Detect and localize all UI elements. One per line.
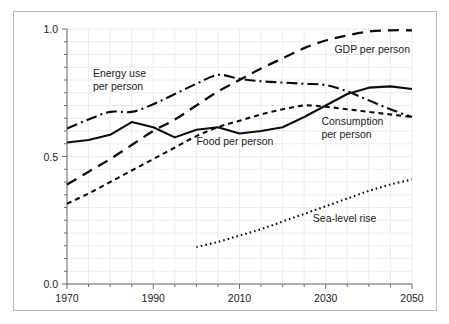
- line-chart: 197019902010203020500.00.51.0 GDP per pe…: [0, 0, 449, 324]
- series-label-energy: Energy use: [93, 67, 146, 79]
- series-label-sealevel: Sea-level rise: [313, 212, 377, 224]
- y-axis-tick-label: 1.0: [43, 23, 58, 35]
- axis-tick-labels: 197019902010203020500.00.51.0: [43, 23, 423, 304]
- y-axis-tick-label: 0.5: [43, 151, 58, 163]
- x-axis-tick-label: 1970: [55, 292, 79, 304]
- x-axis-tick-label: 2010: [228, 292, 252, 304]
- series-label-consumption: Consumption: [321, 115, 383, 127]
- chart-screenshot: 197019902010203020500.00.51.0 GDP per pe…: [0, 0, 449, 324]
- chart-canvas: 197019902010203020500.00.51.0 GDP per pe…: [0, 0, 449, 324]
- x-axis-tick-label: 2030: [314, 292, 338, 304]
- y-axis-tick-label: 0.0: [43, 278, 58, 290]
- series-annotations: GDP per personEnergy useper personFood p…: [93, 43, 410, 223]
- series-label-gdp: GDP per person: [334, 43, 410, 55]
- series-label-consumption: per person: [321, 128, 371, 140]
- series-label-food: Food per person: [196, 135, 273, 147]
- x-axis-tick-label: 1990: [142, 292, 166, 304]
- series-label-energy: per person: [93, 80, 143, 92]
- x-axis-tick-label: 2050: [400, 292, 424, 304]
